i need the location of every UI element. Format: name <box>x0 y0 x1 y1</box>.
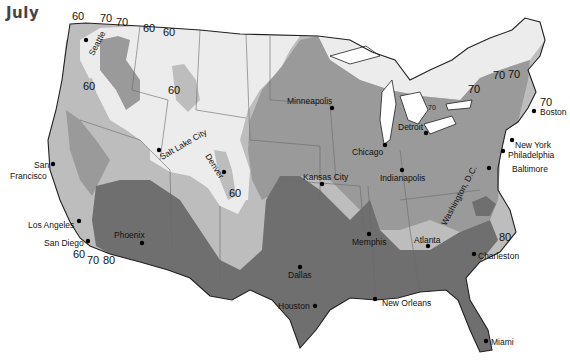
city-label-boston: Boston <box>540 107 567 117</box>
isoline-label: 60 <box>143 22 155 34</box>
isoline-label: 70 <box>468 83 480 95</box>
city-label-baltimore: Baltimore <box>512 164 548 174</box>
city-label-san-diego: San Diego <box>44 238 84 248</box>
isoline-label: 70 <box>428 104 436 111</box>
isoline-label: 60 <box>83 80 95 92</box>
city-label-dallas: Dallas <box>288 270 312 280</box>
city-label-houston: Houston <box>278 301 310 311</box>
isoline-label: 70 <box>508 68 520 80</box>
isoline-label: 60 <box>163 26 175 38</box>
isoline-label: 60 <box>168 84 180 96</box>
city-dot <box>367 232 371 236</box>
city-label-minneapolis: Minneapolis <box>287 96 332 106</box>
city-dot <box>501 149 505 153</box>
isoline-label: 80 <box>499 231 511 243</box>
us-climate-map: 60 70 70 60 60 60 60 60 60 70 80 70 70 7… <box>0 0 570 364</box>
isoline-label: 70 <box>493 69 505 81</box>
city-dot <box>532 109 536 113</box>
city-dot <box>472 252 476 256</box>
city-dot <box>298 265 302 269</box>
city-label-new-york: New York <box>515 140 552 150</box>
city-dot <box>51 162 55 166</box>
city-label-kansas-city: Kansas City <box>303 172 349 182</box>
city-label-atlanta: Atlanta <box>414 235 441 245</box>
city-dot <box>330 106 334 110</box>
city-dot <box>140 241 144 245</box>
isoline-label: 70 <box>87 254 99 266</box>
city-label-los-angeles: Los Angeles <box>28 220 74 230</box>
city-label-miami: Miami <box>491 337 514 347</box>
isoline-label: 70 <box>116 16 128 28</box>
city-label-philadelphia: Philadelphia <box>508 150 555 160</box>
isoline-label: 60 <box>72 10 84 22</box>
city-label-memphis: Memphis <box>352 237 386 247</box>
isoline-label: 70 <box>100 12 112 24</box>
city-dot <box>373 297 377 301</box>
city-label-san-francisco: San <box>34 160 49 170</box>
city-dot <box>313 304 317 308</box>
isoline-label: 80 <box>103 254 115 266</box>
city-dot <box>383 143 387 147</box>
city-dot <box>84 38 88 42</box>
isoline-label: 60 <box>73 248 85 260</box>
city-label-new-orleans: New Orleans <box>382 298 431 308</box>
city-dot <box>320 182 324 186</box>
city-dot <box>484 339 488 343</box>
city-dot <box>510 138 514 142</box>
city-dot <box>487 166 491 170</box>
city-dot <box>77 219 81 223</box>
city-dot <box>86 239 90 243</box>
city-label-detroit: Detroit <box>398 122 424 132</box>
city-dot <box>424 131 428 135</box>
isoline-label: 60 <box>229 187 241 199</box>
city-label-san-francisco: Francisco <box>10 171 47 181</box>
city-label-chicago: Chicago <box>352 147 383 157</box>
city-label-charleston: Charleston <box>478 251 519 261</box>
city-label-indianapolis: Indianapolis <box>380 173 425 183</box>
city-label-phoenix: Phoenix <box>114 230 145 240</box>
city-dot <box>400 168 404 172</box>
